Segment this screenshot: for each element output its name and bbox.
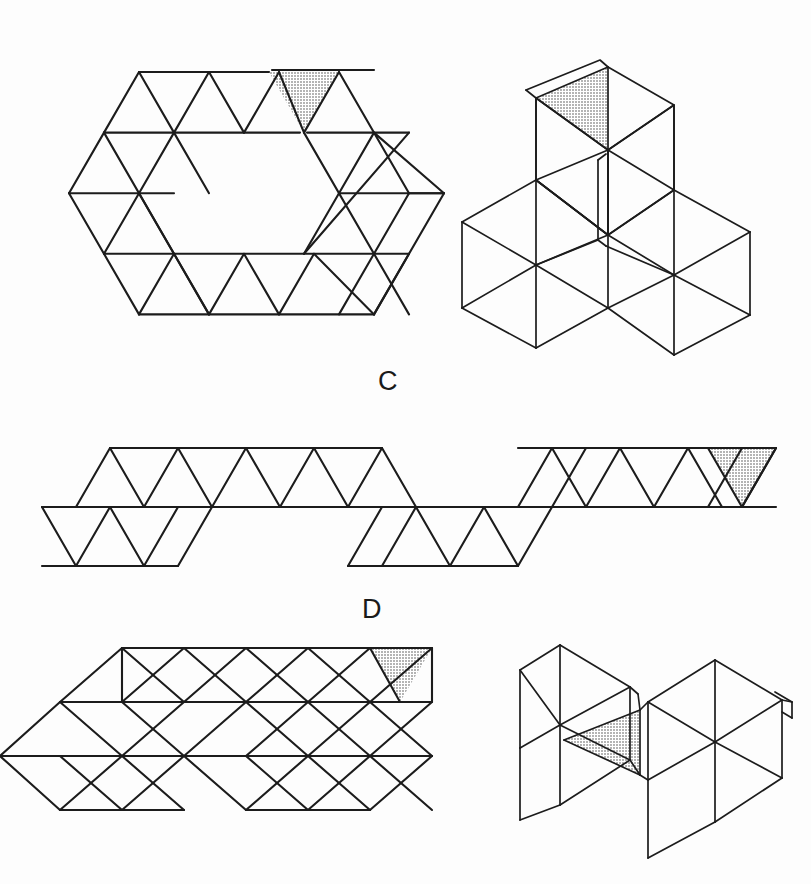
figure-d-strip: [0, 430, 811, 590]
label-c: C: [378, 368, 398, 395]
figure-d-lower-net-svg: [0, 630, 500, 870]
figure-c-solid: [440, 50, 780, 380]
label-d: D: [362, 596, 382, 623]
figure-c-solid-svg: [440, 50, 780, 380]
shaded-triangle: [269, 72, 339, 133]
lower-net-edges: [0, 648, 432, 810]
shaded-triangle-strip: [708, 448, 776, 507]
shaded-face-d: [564, 710, 640, 775]
figure-d-lower-net: [0, 630, 500, 870]
solid-d-edges: [520, 645, 792, 858]
figure-d-strip-svg: [0, 430, 811, 590]
figure-d-solid: [520, 630, 810, 860]
figure-sheet: C: [0, 0, 811, 884]
figure-d-solid-svg: [520, 630, 810, 860]
net-edges: [69, 70, 444, 314]
shaded-face: [536, 67, 608, 150]
strip-edges: [42, 448, 776, 566]
